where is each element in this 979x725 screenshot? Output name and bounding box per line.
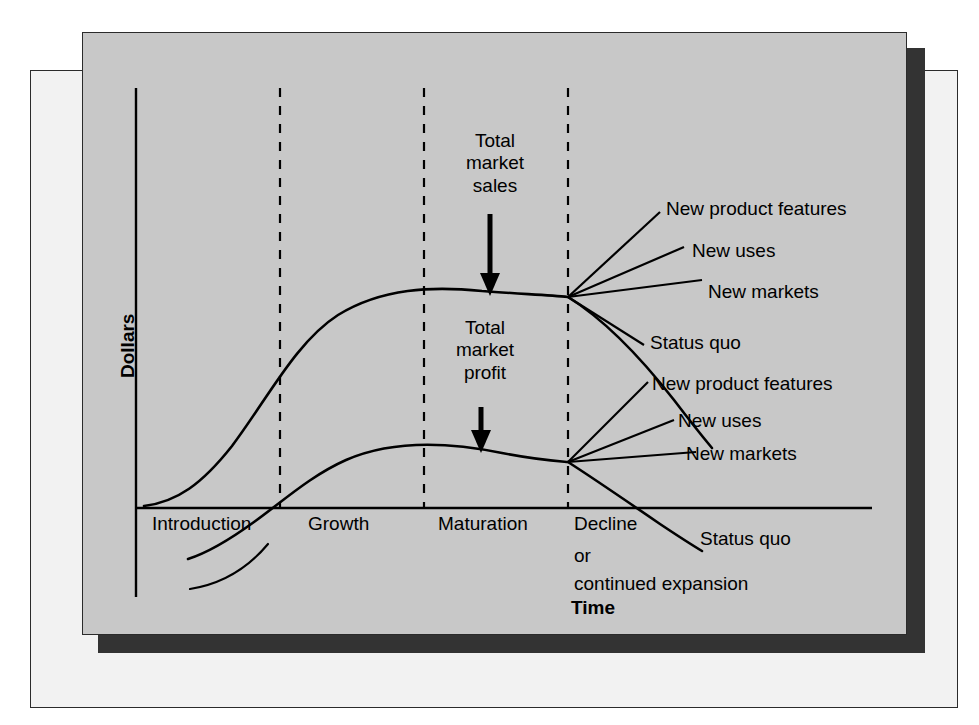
sales-leader-new-product-features <box>568 212 660 297</box>
stage-label-maturation: Maturation <box>438 513 528 535</box>
profit-callout-status-quo: Status quo <box>700 528 791 550</box>
stage-label-growth: Growth <box>308 513 369 535</box>
profit-leader-new-product-features <box>568 382 648 462</box>
sales-callout-new-uses: New uses <box>692 240 775 262</box>
sales-annotation-arrow <box>480 214 500 296</box>
sales-callout-status-quo: Status quo <box>650 332 741 354</box>
introduction-pointer <box>190 544 268 589</box>
sales-leader-status-quo <box>568 297 644 345</box>
figure-root: Dollars Time Total market sales Total ma… <box>0 0 979 725</box>
sales-annotation-label: Total market sales <box>450 130 540 197</box>
profit-status-quo-curve <box>568 462 702 551</box>
stage-label-or: or <box>574 545 591 567</box>
profit-callout-new-markets: New markets <box>686 443 797 465</box>
profit-annotation-label: Total market profit <box>440 317 530 384</box>
profit-callout-new-uses: New uses <box>678 410 761 432</box>
sales-callout-new-product-features: New product features <box>666 198 847 220</box>
stage-label-continued-expansion: continued expansion <box>574 573 748 595</box>
sales-callout-new-markets: New markets <box>708 281 819 303</box>
y-axis-title: Dollars <box>117 314 139 378</box>
x-axis-title: Time <box>571 597 615 619</box>
profit-annotation-arrow <box>471 407 491 453</box>
stage-label-decline: Decline <box>574 513 637 535</box>
profit-callout-new-product-features: New product features <box>652 373 833 395</box>
stage-label-introduction: Introduction <box>152 513 251 535</box>
profit-curve <box>188 445 568 559</box>
